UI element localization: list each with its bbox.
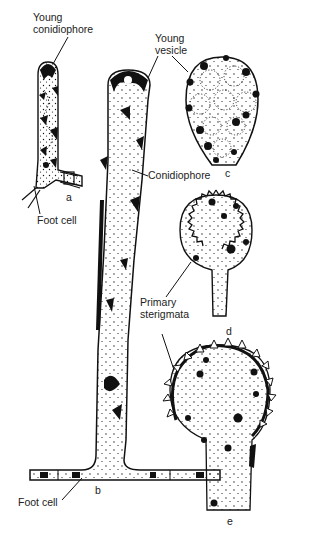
panel-letter-e: e: [227, 515, 233, 527]
panel-letter-a: a: [66, 191, 72, 203]
label-young-vesicle: Young vesicle: [155, 32, 187, 56]
label-line-1: Primary: [140, 296, 189, 308]
panel-c-young-vesicle: [186, 55, 260, 165]
label-line-2: sterigmata: [140, 308, 189, 320]
panel-d-vesicle: [180, 190, 252, 316]
label-primary-sterigmata: Primary sterigmata: [140, 296, 189, 320]
label-conidiophore: Conidiophore: [148, 169, 210, 181]
panel-letter-b: b: [95, 484, 101, 496]
label-line-1: Young: [155, 32, 187, 44]
panel-a-young-conidiophore: [22, 62, 82, 208]
label-line-2: vesicle: [155, 44, 187, 56]
diagram-canvas: [0, 0, 312, 536]
label-line-2: conidiophore: [33, 23, 93, 35]
panel-letter-d: d: [226, 325, 232, 337]
label-foot-cell-a: Foot cell: [37, 214, 77, 226]
label-line-1: Young: [33, 11, 93, 23]
label-young-conidiophore: Young conidiophore: [33, 11, 93, 35]
panel-e-mature-vesicle: [163, 338, 276, 510]
label-foot-cell-b: Foot cell: [18, 496, 58, 508]
panel-letter-c: c: [225, 167, 230, 179]
